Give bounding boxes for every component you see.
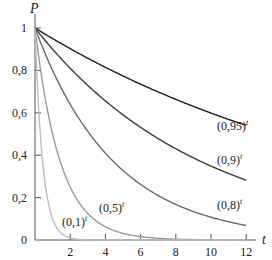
curve-0.9 (35, 28, 246, 180)
y-axis-label: P (29, 1, 39, 16)
decay-chart: 00,20,40,60,81 24681012 (0,95)t(0,9)t(0,… (0, 0, 272, 260)
x-tick-label: 6 (138, 245, 144, 259)
curve-label: (0,1)t (62, 214, 88, 229)
y-tick-label: 0,2 (12, 191, 27, 205)
curves (35, 28, 246, 240)
y-tick-label: 0 (21, 233, 27, 247)
x-tick-label: 10 (205, 245, 217, 259)
curve-0.1 (35, 28, 246, 240)
curve-label: (0,9)t (217, 152, 243, 167)
y-tick-label: 0,4 (12, 148, 27, 162)
x-tick-label: 2 (67, 245, 73, 259)
x-tick-label: 8 (173, 245, 179, 259)
y-tick-label: 0,6 (12, 106, 27, 120)
curve-0.95 (35, 28, 246, 125)
curve-0.5 (35, 28, 246, 240)
curve-label: (0,5)t (99, 200, 125, 215)
y-tick-label: 1 (21, 21, 27, 35)
x-tick-label: 4 (102, 245, 108, 259)
x-tick-label: 12 (240, 245, 252, 259)
x-axis-label: t (262, 232, 267, 247)
curve-label: (0,95)t (217, 118, 249, 133)
curve-label: (0,8)t (217, 197, 243, 212)
y-tick-label: 0,8 (12, 63, 27, 77)
